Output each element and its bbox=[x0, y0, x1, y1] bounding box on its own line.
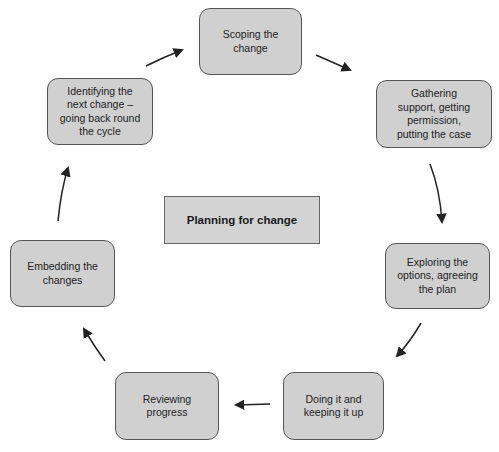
node-scoping-the-change: Scoping the change bbox=[199, 8, 302, 75]
node-label: Doing it and keeping it up bbox=[304, 393, 364, 420]
node-embedding-changes: Embedding the changes bbox=[10, 240, 115, 307]
arrow-scoping-to-gathering bbox=[316, 55, 350, 70]
node-gathering-support: Gathering support, getting permission, p… bbox=[376, 80, 492, 148]
arrow-doing-to-reviewing bbox=[236, 404, 270, 405]
arrow-embedding-to-identifying bbox=[58, 168, 68, 221]
node-label: Identifying the next change – going back… bbox=[60, 85, 141, 139]
arrow-identifying-to-scoping bbox=[146, 50, 182, 66]
node-exploring-options: Exploring the options, agreeing the plan bbox=[385, 243, 490, 309]
node-reviewing-progress: Reviewing progress bbox=[115, 372, 219, 440]
arrow-exploring-to-doing bbox=[397, 323, 421, 356]
node-doing-it: Doing it and keeping it up bbox=[283, 372, 384, 440]
arrow-reviewing-to-embedding bbox=[84, 329, 105, 361]
node-label: Scoping the change bbox=[223, 28, 278, 55]
node-identifying-next-change: Identifying the next change – going back… bbox=[47, 78, 153, 145]
center-label: Planning for change bbox=[187, 214, 298, 226]
node-label: Reviewing progress bbox=[143, 393, 191, 420]
center-box-planning-for-change: Planning for change bbox=[164, 196, 320, 244]
node-label: Exploring the options, agreeing the plan bbox=[397, 256, 478, 297]
node-label: Embedding the changes bbox=[27, 260, 98, 287]
node-label: Gathering support, getting permission, p… bbox=[397, 87, 471, 141]
arrow-gathering-to-exploring bbox=[430, 164, 442, 222]
